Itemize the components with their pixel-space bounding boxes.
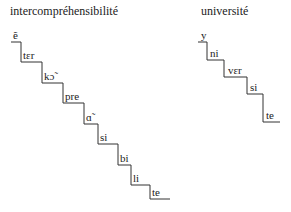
syllable: ɑ̃ (86, 112, 92, 123)
syllable: ẽ (13, 30, 18, 41)
syllable: ni (210, 48, 219, 59)
syllable: vɛr (228, 65, 242, 76)
syllable: te (266, 110, 274, 121)
syllable: li (133, 173, 139, 184)
syllable: bi (120, 153, 129, 164)
syllable: si (100, 132, 107, 143)
syllable: y (201, 30, 207, 41)
syllable: si (250, 82, 257, 93)
syllable: te (152, 187, 160, 198)
syllable: tɛr (23, 50, 34, 61)
syllable: pre (65, 91, 79, 102)
syllable: kɔ̃ (44, 71, 54, 82)
staircase-lines (0, 0, 291, 212)
